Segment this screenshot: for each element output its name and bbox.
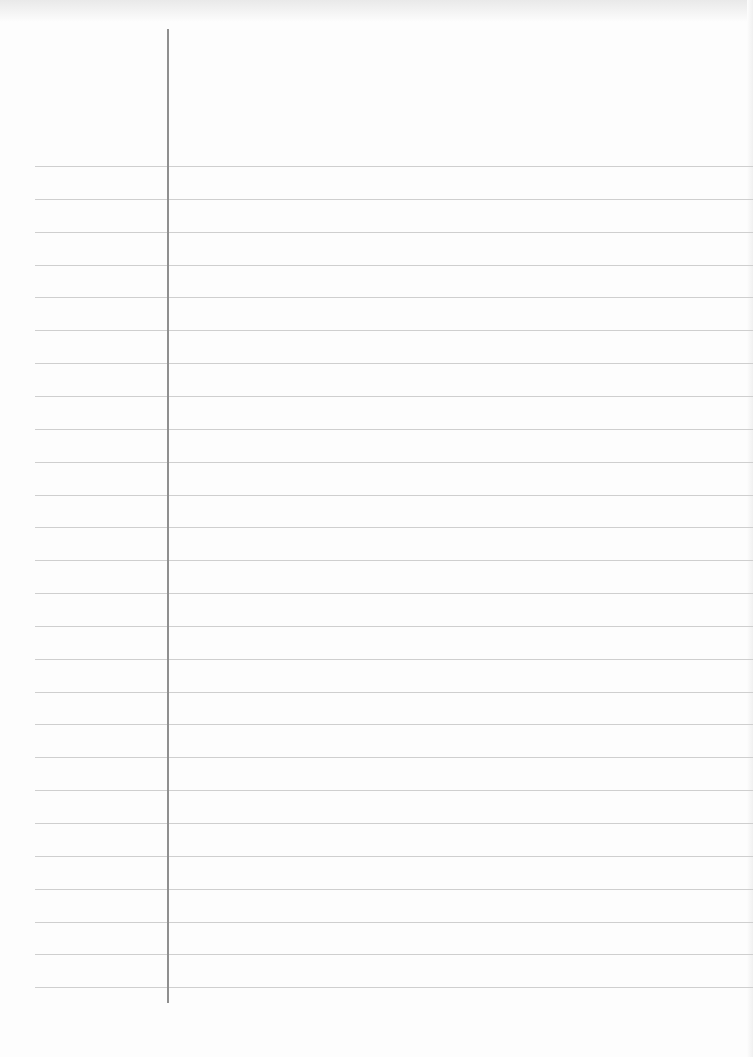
ruled-line	[35, 199, 753, 200]
ruled-line	[35, 265, 753, 266]
ruled-line	[35, 889, 753, 890]
ruled-line	[35, 330, 753, 331]
ruled-line	[35, 593, 753, 594]
ruled-line	[35, 495, 753, 496]
ruled-line	[35, 790, 753, 791]
ruled-line	[35, 363, 753, 364]
scan-top-edge	[0, 0, 753, 22]
ruled-line	[35, 527, 753, 528]
ruled-line	[35, 232, 753, 233]
ruled-line	[35, 297, 753, 298]
ruled-line	[35, 692, 753, 693]
margin-line	[167, 29, 169, 1003]
ruled-line	[35, 987, 753, 988]
ruled-line	[35, 396, 753, 397]
ruled-line	[35, 856, 753, 857]
ruled-line	[35, 922, 753, 923]
scan-right-edge	[747, 0, 753, 1057]
ruled-line	[35, 954, 753, 955]
ruled-line	[35, 626, 753, 627]
ruled-line	[35, 166, 753, 167]
ruled-line	[35, 429, 753, 430]
ruled-line	[35, 823, 753, 824]
ruled-line	[35, 659, 753, 660]
ruled-line	[35, 724, 753, 725]
ruled-line	[35, 560, 753, 561]
ruled-line	[35, 462, 753, 463]
ruled-line	[35, 757, 753, 758]
